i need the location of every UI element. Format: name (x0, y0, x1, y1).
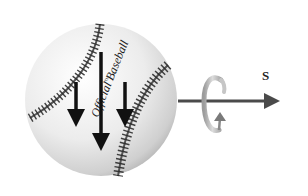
rotation-arrow-icon (204, 78, 226, 131)
axis-label-s: S (262, 68, 269, 83)
baseball-spin-diagram: Official Baseball TM S (0, 0, 308, 196)
spin-axis-arrow (178, 93, 280, 109)
